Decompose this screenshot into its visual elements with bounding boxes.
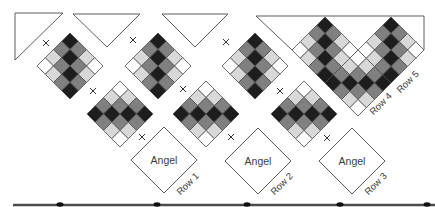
join-x-mark-icon (277, 88, 283, 94)
join-x-mark-icon (228, 134, 234, 140)
join-x-mark-icon (180, 86, 186, 92)
join-x-mark-icon (139, 134, 145, 140)
angel-block-label: Angel (245, 155, 272, 167)
join-x-mark-icon (90, 88, 96, 94)
bottom-rule (13, 202, 435, 206)
pieced-block-horizontal-stripe (87, 81, 153, 147)
join-x-mark-icon (43, 40, 49, 46)
setting-triangle (162, 14, 228, 47)
pieced-block-horizontal-stripe (173, 81, 239, 147)
quilt-assembly-diagram: AngelRow 1AngelRow 2AngelRow 3Row 4Row 5 (0, 0, 435, 207)
pieced-block-vertical-stripe (125, 33, 191, 99)
angel-block-label: Angel (339, 155, 366, 167)
join-x-mark-icon (223, 39, 229, 45)
join-x-mark-icon (324, 135, 330, 141)
setting-triangle (73, 14, 140, 47)
join-x-mark-icon (130, 37, 136, 43)
angel-block-label: Angel (151, 154, 178, 166)
pieced-block-horizontal-stripe (271, 81, 337, 147)
pieced-block-vertical-stripe (37, 33, 103, 99)
